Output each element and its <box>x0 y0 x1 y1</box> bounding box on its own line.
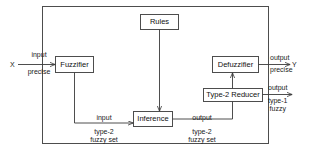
label-output-type2-line1: output <box>192 114 211 122</box>
label-output-type2-fuzzy-set: output <box>192 114 211 122</box>
label-output-type2-line2: type-2 <box>188 128 216 136</box>
label-input-precise-line1: input <box>31 51 46 59</box>
input-variable-x: X <box>10 61 15 69</box>
block-label-inference[interactable]: Inference <box>137 115 168 123</box>
label-output-precise-line2: precise <box>270 66 293 74</box>
label-input-type2-line1: input <box>96 114 111 122</box>
label-output-precise-line1: output <box>270 54 289 62</box>
block-label-fuzzifier[interactable]: Fuzzifier <box>60 61 88 69</box>
label-input-type2-lines: type-2 fuzzy set <box>90 128 118 144</box>
label-input-type2-line3: fuzzy set <box>90 136 118 144</box>
block-label-rules[interactable]: Rules <box>150 18 169 26</box>
block-label-type2-reducer[interactable]: Type-2 Reducer <box>206 91 259 99</box>
label-output-type1-line1: output <box>268 84 287 92</box>
diagram-canvas: Rules Fuzzifier Inference Type-2 Reducer… <box>0 0 311 159</box>
label-input-type2-fuzzy-set: input <box>96 114 111 122</box>
label-output-type1-line3: fuzzy <box>268 105 287 113</box>
label-output-type1-lines: type-1 fuzzy <box>268 97 287 113</box>
label-input-type2-line2: type-2 <box>90 128 118 136</box>
label-output-type1-fuzzy: output <box>268 84 287 92</box>
label-output-type2-lines: type-2 fuzzy set <box>188 128 216 144</box>
block-label-defuzzifier[interactable]: Defuzzifier <box>218 61 253 69</box>
label-output-type1-line2: type-1 <box>268 97 287 105</box>
label-output-type2-line3: fuzzy set <box>188 136 216 144</box>
label-input-precise-line2: precise <box>28 68 51 76</box>
